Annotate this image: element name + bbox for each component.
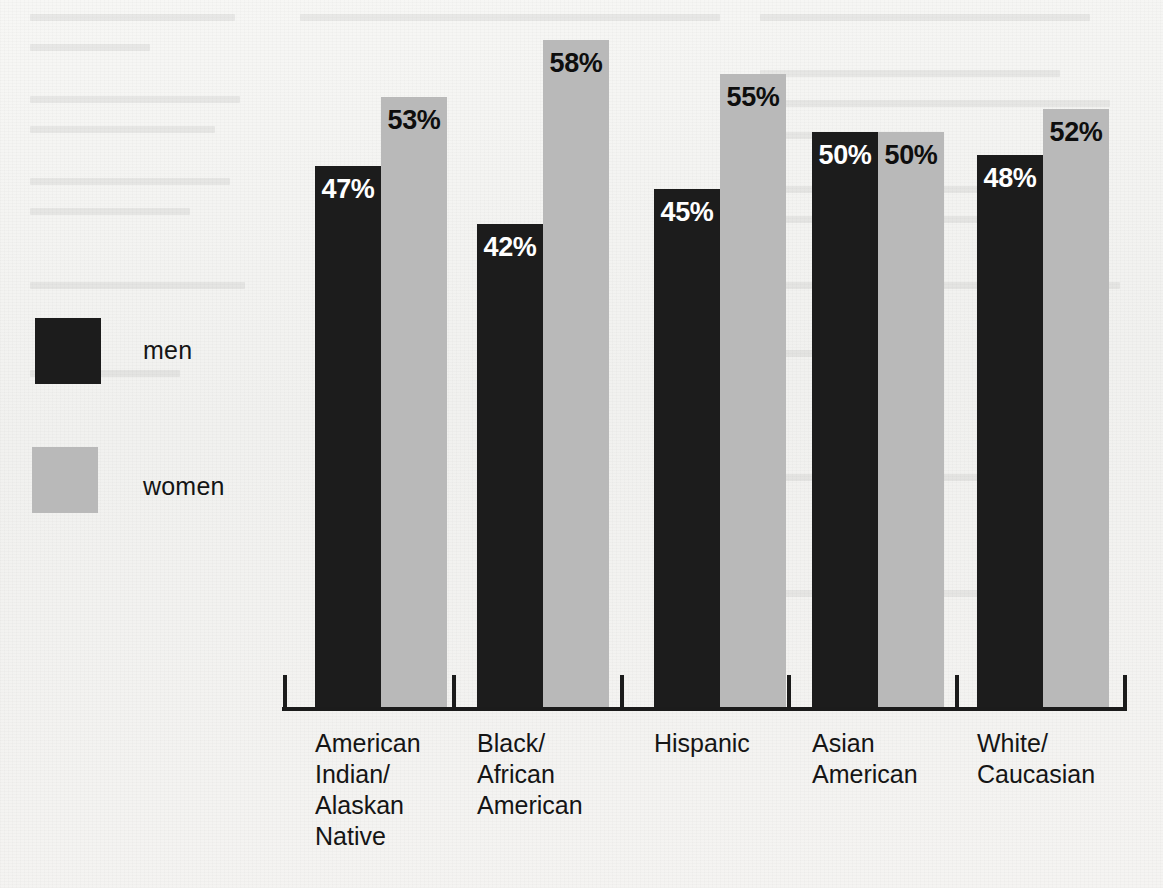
axis-tick-4 — [955, 675, 959, 709]
bar-men-group-0: 47% — [315, 166, 381, 707]
bar-value-label: 42% — [477, 232, 543, 262]
bar-value-label: 50% — [878, 140, 944, 170]
bar-value-label: 47% — [315, 174, 381, 204]
bar-women-group-1: 58% — [543, 40, 609, 707]
bar-value-label: 52% — [1043, 117, 1109, 147]
bar-women-group-3: 50% — [878, 132, 944, 707]
axis-tick-3 — [787, 675, 791, 709]
category-label-0: American Indian/ Alaskan Native — [315, 728, 421, 852]
bar-men-group-2: 45% — [654, 189, 720, 707]
plot-area: 47%53%American Indian/ Alaskan Native42%… — [0, 0, 1163, 888]
category-label-1: Black/ African American — [477, 728, 583, 821]
bar-women-group-2: 55% — [720, 74, 786, 707]
bar-value-label: 45% — [654, 197, 720, 227]
bar-women-group-4: 52% — [1043, 109, 1109, 707]
bar-value-label: 55% — [720, 82, 786, 112]
bar-value-label: 50% — [812, 140, 878, 170]
bar-men-group-1: 42% — [477, 224, 543, 707]
axis-tick-1 — [452, 675, 456, 709]
bar-value-label: 53% — [381, 105, 447, 135]
axis-tick-5 — [1123, 675, 1127, 709]
bar-women-group-0: 53% — [381, 97, 447, 707]
bar-men-group-4: 48% — [977, 155, 1043, 707]
category-axis-line — [282, 707, 1127, 711]
category-label-3: Asian American — [812, 728, 918, 790]
axis-tick-2 — [620, 675, 624, 709]
bar-value-label: 58% — [543, 48, 609, 78]
axis-tick-0 — [283, 675, 287, 709]
bar-value-label: 48% — [977, 163, 1043, 193]
bar-chart: men women 47%53%American Indian/ Alaskan… — [0, 0, 1163, 888]
category-label-2: Hispanic — [654, 728, 750, 759]
bar-men-group-3: 50% — [812, 132, 878, 707]
category-label-4: White/ Caucasian — [977, 728, 1095, 790]
